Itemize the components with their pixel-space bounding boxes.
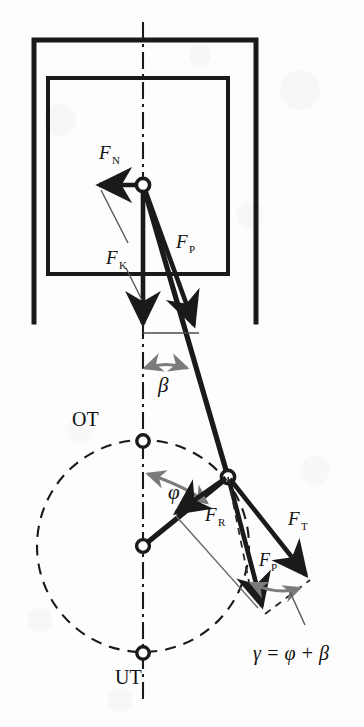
resultant-guide-line xyxy=(176,516,258,608)
label-FK: F K xyxy=(105,247,127,271)
label-FP-piston-symbol: F xyxy=(175,231,188,252)
gamma-label-leader xyxy=(290,592,305,625)
label-angle-beta: β xyxy=(157,373,169,397)
label-FP-crank-subscript: P xyxy=(271,561,277,573)
slider-crank-force-diagram: F N F K F P β OT UT φ F R F T xyxy=(0,0,364,727)
label-FN-symbol: F xyxy=(98,142,111,163)
crankshaft-center-joint xyxy=(137,540,150,553)
label-angle-phi: φ xyxy=(168,480,180,504)
label-FR-subscript: R xyxy=(218,516,226,528)
connecting-rod xyxy=(143,185,228,477)
label-FR: F R xyxy=(204,504,226,528)
label-FT: F T xyxy=(287,508,308,532)
label-FT-subscript: T xyxy=(301,520,308,532)
label-gamma-relation: γ = φ + β xyxy=(253,642,329,665)
label-FK-symbol: F xyxy=(105,247,118,268)
label-FP-crank-symbol: F xyxy=(258,550,271,570)
label-top-dead-center: OT xyxy=(72,408,99,430)
force-vector-FP-piston xyxy=(144,187,194,325)
label-FN: F N xyxy=(98,142,120,166)
label-FP-crank: F P xyxy=(258,550,277,573)
label-FP-piston-subscript: P xyxy=(189,243,195,255)
force-vector-FR xyxy=(176,478,226,513)
label-FK-subscript: K xyxy=(119,259,127,271)
piston-rectangle xyxy=(48,78,228,274)
label-FR-symbol: F xyxy=(204,504,217,525)
angle-arc-beta xyxy=(145,365,187,369)
bottom-dead-center-marker xyxy=(137,647,149,659)
label-FP-piston: F P xyxy=(175,231,195,255)
label-bottom-dead-center: UT xyxy=(115,666,142,688)
figure-container: F N F K F P β OT UT φ F R F T xyxy=(0,0,364,727)
construction-dash-closing xyxy=(265,580,310,614)
top-dead-center-marker xyxy=(137,435,149,447)
scan-noise xyxy=(28,44,330,712)
piston-pin-joint xyxy=(136,178,149,191)
label-FN-subscript: N xyxy=(112,154,120,166)
FK-leader-upper xyxy=(101,190,128,243)
label-FT-symbol: F xyxy=(287,508,300,529)
